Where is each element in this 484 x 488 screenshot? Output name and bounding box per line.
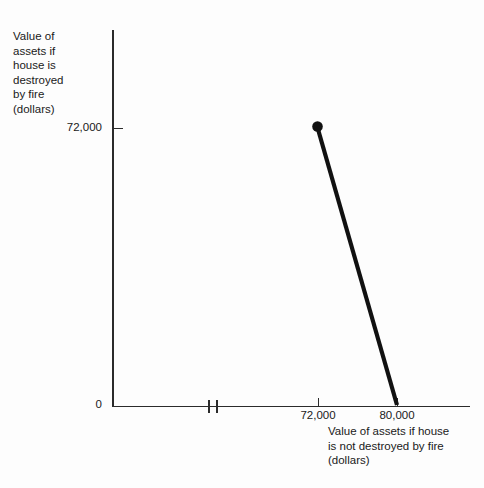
budget-line (318, 128, 398, 406)
data-point-marker-72000-72000 (312, 121, 323, 132)
plot-area (0, 0, 484, 488)
chart-figure: Value of assets if house is destroyed by… (0, 0, 484, 488)
